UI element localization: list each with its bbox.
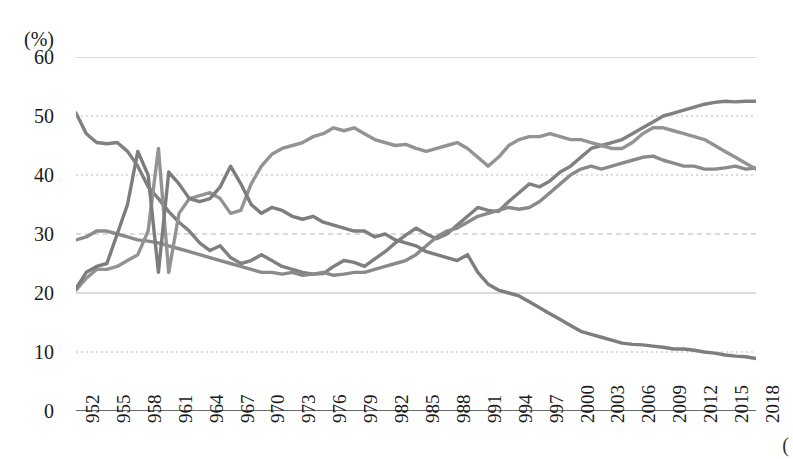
y-tick-20: 20 xyxy=(8,283,54,303)
chart-page: (%) 6050403020100 9529559589619649679709… xyxy=(0,0,793,459)
x-tick-label-2018: 2018 xyxy=(763,385,782,423)
line-chart-svg xyxy=(76,57,756,411)
plot-area xyxy=(76,57,756,411)
series-line-series-c xyxy=(76,128,756,290)
y-tick-0: 0 xyxy=(8,401,54,421)
edge-paren-marker: ( xyxy=(782,434,789,457)
y-tick-30: 30 xyxy=(8,224,54,244)
y-tick-10: 10 xyxy=(8,342,54,362)
y-tick-40: 40 xyxy=(8,165,54,185)
y-tick-60: 60 xyxy=(8,47,54,67)
y-tick-50: 50 xyxy=(8,106,54,126)
